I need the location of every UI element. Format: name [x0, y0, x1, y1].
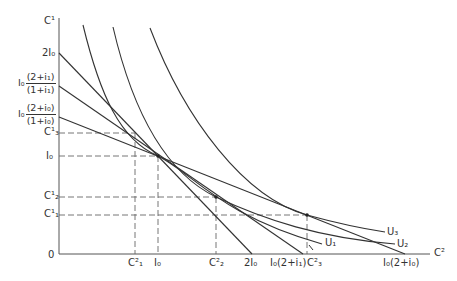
x-tick-2i0: 2I₀ — [244, 258, 257, 268]
arrow-mark — [309, 245, 313, 250]
curve-u3 — [150, 28, 385, 232]
x-tick-i0-2-i1: I₀(2+i₁) — [270, 258, 306, 268]
y-tick-frac-i1: I₀ (2+i₁) (1+i₁) — [18, 72, 56, 94]
x-tick-i0: I₀ — [154, 258, 161, 268]
origin-label: 0 — [48, 250, 54, 260]
y-tick-frac-i0: I₀ (2+i₀) (1+i₀) — [18, 103, 56, 125]
x-tick-c3-2: C²₃ — [307, 258, 322, 268]
frac-denominator: (1+i₀) — [26, 115, 56, 126]
x-tick-i0-2-i0: I₀(2+i₀) — [383, 258, 419, 268]
x-axis-label: C² — [434, 248, 445, 258]
curve-label-u3: U₃ — [387, 227, 398, 237]
y-tick-c3-1: C¹₃ — [44, 127, 59, 137]
frac-prefix: I₀ — [18, 109, 25, 119]
x-tick-c2-2: C²₂ — [209, 258, 224, 268]
frac-prefix: I₀ — [18, 78, 25, 88]
dashed-guides — [59, 133, 307, 254]
curve-label-u1: U₁ — [325, 238, 336, 248]
diagram-canvas — [0, 0, 457, 281]
y-tick-2i0: 2I₀ — [42, 48, 55, 58]
frac-numerator: (2+i₁) — [26, 72, 56, 84]
y-axis-label: C¹ — [44, 16, 55, 26]
frac-denominator: (1+i₁) — [26, 84, 56, 95]
y-tick-i0: I₀ — [46, 151, 53, 161]
x-tick-c1-2: C²₁ — [128, 258, 143, 268]
curve-u1 — [83, 25, 322, 244]
budget-line-2i0 — [59, 53, 252, 254]
curve-label-u2: U₂ — [397, 239, 408, 249]
budget-line-i1 — [59, 86, 303, 254]
budget-lines — [59, 53, 405, 254]
y-tick-c1-1: C¹₁ — [44, 209, 59, 219]
frac-numerator: (2+i₀) — [26, 103, 56, 115]
curve-u2 — [113, 27, 395, 244]
y-tick-c2-1: C¹₂ — [44, 191, 59, 201]
